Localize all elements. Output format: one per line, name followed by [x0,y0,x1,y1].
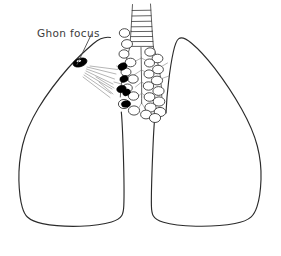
hilar-lymph-nodes-right [141,48,166,123]
trachea [130,4,154,47]
left-lung-outline [19,37,124,226]
right-lung-outline [151,38,261,226]
figure-root: Ghon focus [0,0,281,256]
lung-diagram: Ghon focus [0,0,281,256]
lymphatic-streaks [83,66,118,98]
ghon-focus-label: Ghon focus [37,27,100,39]
